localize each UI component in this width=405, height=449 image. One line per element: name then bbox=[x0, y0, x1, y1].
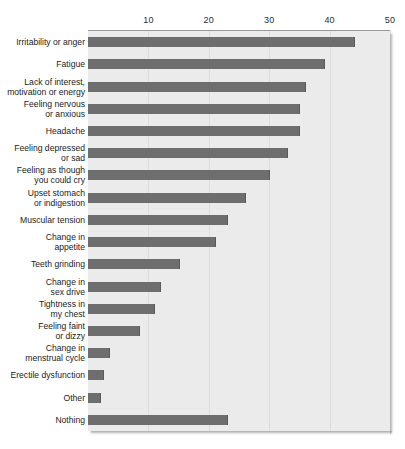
bar bbox=[88, 126, 300, 136]
bar-row: Change in sex drive bbox=[0, 275, 405, 297]
bar-row: Headache bbox=[0, 120, 405, 142]
bar-row: Teeth grinding bbox=[0, 253, 405, 275]
category-label: Muscular tension bbox=[0, 215, 85, 225]
panel-shadow-right bbox=[390, 34, 393, 434]
bar bbox=[88, 393, 101, 403]
bar-row: Nothing bbox=[0, 409, 405, 431]
category-label: Change in menstrual cycle bbox=[0, 343, 85, 363]
panel-shadow-bottom bbox=[91, 431, 392, 434]
bar-row: Lack of interest, motivation or energy bbox=[0, 75, 405, 97]
category-label: Irritability or anger bbox=[0, 37, 85, 47]
category-label: Upset stomach or indigestion bbox=[0, 188, 85, 208]
bar-row: Change in menstrual cycle bbox=[0, 342, 405, 364]
category-label: Change in appetite bbox=[0, 232, 85, 252]
bar bbox=[88, 259, 180, 269]
bar-row: Tightness in my chest bbox=[0, 298, 405, 320]
bar bbox=[88, 59, 325, 69]
bar-row: Irritability or anger bbox=[0, 31, 405, 53]
bar-row: Change in appetite bbox=[0, 231, 405, 253]
bar bbox=[88, 348, 110, 358]
bar bbox=[88, 82, 306, 92]
category-label: Fatigue bbox=[0, 59, 85, 69]
category-label: Change in sex drive bbox=[0, 277, 85, 297]
bar bbox=[88, 193, 246, 203]
category-label: Teeth grinding bbox=[0, 259, 85, 269]
category-label: Lack of interest, motivation or energy bbox=[0, 77, 85, 97]
category-label: Feeling as though you could cry bbox=[0, 165, 85, 185]
bar bbox=[88, 148, 288, 158]
bar-row: Feeling depressed or sad bbox=[0, 142, 405, 164]
bar bbox=[88, 282, 161, 292]
bar-row: Upset stomach or indigestion bbox=[0, 187, 405, 209]
bar-row: Feeling nervous or anxious bbox=[0, 98, 405, 120]
bar bbox=[88, 170, 270, 180]
bar bbox=[88, 104, 300, 114]
bar-row: Other bbox=[0, 387, 405, 409]
x-axis-tick-label: 10 bbox=[143, 15, 153, 25]
category-label: Feeling nervous or anxious bbox=[0, 99, 85, 119]
x-axis-tick-label: 50 bbox=[385, 15, 395, 25]
bar-row: Erectile dysfunction bbox=[0, 364, 405, 386]
category-label: Feeling depressed or sad bbox=[0, 143, 85, 163]
bar bbox=[88, 304, 155, 314]
x-axis-tick-label: 30 bbox=[264, 15, 274, 25]
bar bbox=[88, 370, 104, 380]
x-axis: 1020304050 bbox=[0, 0, 405, 32]
bar-row: Feeling as though you could cry bbox=[0, 164, 405, 186]
bar bbox=[88, 215, 228, 225]
bar-row: Muscular tension bbox=[0, 209, 405, 231]
bar bbox=[88, 237, 216, 247]
category-label: Erectile dysfunction bbox=[0, 370, 85, 380]
bar bbox=[88, 415, 228, 425]
bar bbox=[88, 37, 355, 47]
category-label: Other bbox=[0, 393, 85, 403]
x-axis-tick-label: 20 bbox=[204, 15, 214, 25]
bar-chart: 1020304050 Irritability or angerFatigueL… bbox=[0, 0, 405, 449]
category-label: Nothing bbox=[0, 415, 85, 425]
category-label: Tightness in my chest bbox=[0, 299, 85, 319]
category-label: Feeling faint or dizzy bbox=[0, 321, 85, 341]
x-axis-tick-label: 40 bbox=[324, 15, 334, 25]
category-label: Headache bbox=[0, 126, 85, 136]
bar-row: Fatigue bbox=[0, 53, 405, 75]
bar-row: Feeling faint or dizzy bbox=[0, 320, 405, 342]
bar-rows: Irritability or angerFatigueLack of inte… bbox=[0, 31, 405, 431]
bar bbox=[88, 326, 140, 336]
